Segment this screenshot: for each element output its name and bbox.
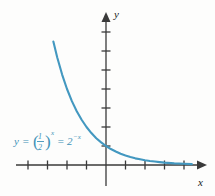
equation-exponent: x <box>50 129 55 137</box>
x-axis-arrowhead <box>197 161 207 170</box>
equation-equals-2: = <box>57 135 64 147</box>
equation-right-paren: ) <box>45 132 51 151</box>
equation-annotation: y = ( 1 2 ) x = 2 −x <box>13 129 82 152</box>
graph-figure: y x y = ( 1 2 ) x = 2 −x <box>0 0 215 196</box>
equation-rhs-exponent: −x <box>73 133 82 141</box>
equation-equals-1: = <box>22 135 29 147</box>
equation-lhs: y <box>13 135 19 147</box>
plot-svg: y x y = ( 1 2 ) x = 2 −x <box>0 0 215 196</box>
y-axis-arrowhead <box>102 12 111 22</box>
equation-denominator: 2 <box>38 143 42 152</box>
x-axis-label: x <box>197 176 203 188</box>
equation-numerator: 1 <box>38 132 42 141</box>
y-axis-label: y <box>113 8 119 20</box>
exponential-decay-curve <box>53 42 191 165</box>
